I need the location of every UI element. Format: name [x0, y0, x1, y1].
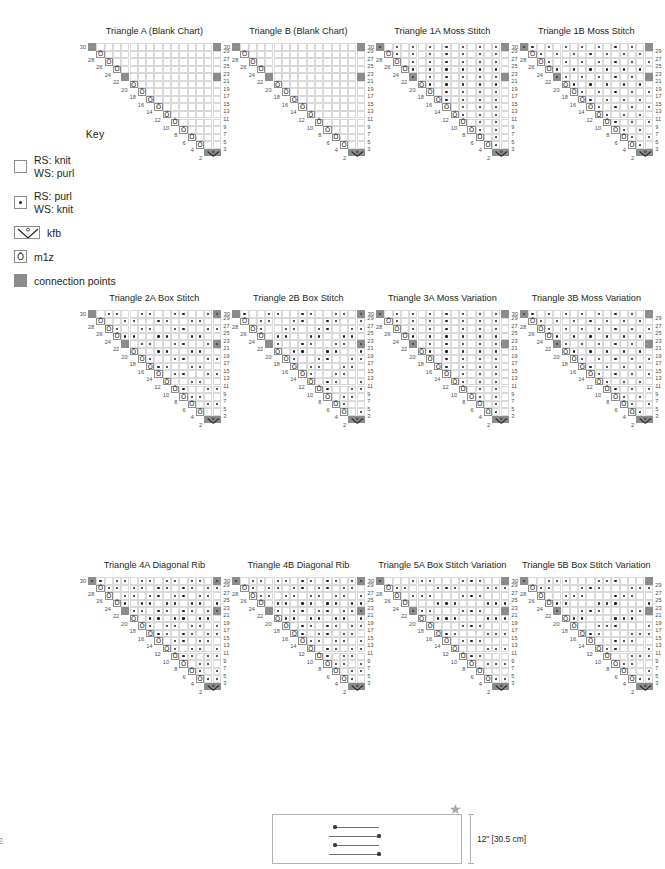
knit-cell — [179, 600, 187, 608]
purl-cell — [348, 645, 356, 653]
purl-cell — [146, 340, 154, 348]
connection-point-cell — [520, 310, 528, 318]
purl-cell — [459, 88, 467, 96]
row-number-right: 7 — [223, 131, 226, 138]
row-number-right: 13 — [223, 375, 229, 382]
purl-cell — [171, 615, 179, 623]
row-number-left: 10 — [446, 392, 457, 399]
m1z-cell: Ō — [240, 318, 248, 326]
kfb-cell — [348, 683, 365, 691]
row-number-left: 18 — [557, 94, 568, 101]
row-number-right: 11 — [511, 383, 517, 390]
row-number-left: 28 — [371, 57, 382, 64]
m1z-glyph: Ō — [156, 104, 161, 111]
knit-cell — [340, 318, 348, 326]
purl-cell — [282, 600, 290, 608]
m1z-glyph: Ō — [283, 623, 288, 630]
connection-point-cell — [645, 43, 653, 51]
knit-cell — [154, 81, 162, 89]
purl-cell — [636, 111, 644, 119]
purl-cell — [636, 81, 644, 89]
knit-cell — [171, 585, 179, 593]
purl-cell — [307, 340, 315, 348]
row-number-left: 6 — [607, 674, 618, 681]
knit-cell — [179, 363, 187, 371]
purl-cell — [418, 592, 426, 600]
purl-cell — [204, 370, 212, 378]
purl-cell — [595, 43, 603, 51]
knit-cell — [332, 51, 340, 59]
connection-point-cell — [232, 577, 240, 585]
purl-cell — [595, 585, 603, 593]
knit-cell — [188, 310, 196, 318]
purl-cell — [171, 622, 179, 630]
knit-cell — [578, 66, 586, 74]
knit-cell — [298, 355, 306, 363]
purl-cell — [323, 622, 331, 630]
purl-cell — [451, 585, 459, 593]
kfb-cell — [348, 416, 365, 424]
knit-cell — [179, 111, 187, 119]
knit-cell — [204, 141, 212, 149]
row-number-left: 30 — [363, 578, 374, 585]
purl-cell — [492, 630, 500, 638]
knit-cell — [501, 325, 509, 333]
row-number-right: 27 — [655, 56, 661, 63]
knit-cell — [332, 630, 340, 638]
knit-cell — [595, 363, 603, 371]
connection-point-cell — [121, 73, 129, 81]
knit-cell — [620, 355, 628, 363]
chart-7: Triangle 3A Moss Variation302928Ō2726Ō25… — [376, 293, 509, 430]
row-number-left: 12 — [582, 384, 593, 391]
knit-cell — [154, 73, 162, 81]
purl-cell — [265, 310, 273, 318]
knit-cell — [484, 340, 492, 348]
purl-cell — [562, 592, 570, 600]
row-number-right: 5 — [511, 406, 514, 413]
knit-cell — [620, 607, 628, 615]
knit-cell — [113, 51, 121, 59]
knit-cell — [348, 370, 356, 378]
kfb-cell — [636, 683, 653, 691]
knit-cell — [130, 325, 138, 333]
knit-cell — [332, 585, 340, 593]
knit-cell — [315, 81, 323, 89]
m1z-cell: Ō — [105, 58, 113, 66]
purl-cell — [340, 363, 348, 371]
knit-cell — [348, 81, 356, 89]
knit-cell — [315, 600, 323, 608]
knit-cell — [348, 111, 356, 119]
knit-cell — [298, 592, 306, 600]
knit-cell — [401, 318, 409, 326]
purl-cell — [348, 622, 356, 630]
row-number-right: 7 — [511, 665, 514, 672]
knit-cell — [595, 333, 603, 341]
m1z-cell: Ō — [620, 134, 628, 142]
purl-cell — [492, 675, 500, 683]
purl-cell — [196, 615, 204, 623]
knit-cell — [418, 600, 426, 608]
purl-cell — [204, 325, 212, 333]
connection-point-cell — [357, 73, 365, 81]
knit-cell — [586, 58, 594, 66]
key-purl-line2: WS: knit — [34, 203, 73, 216]
knit-cell — [434, 325, 442, 333]
row-number-left: 12 — [582, 117, 593, 124]
row-number-left: 12 — [438, 651, 449, 658]
m1z-cell: Ō — [393, 325, 401, 333]
knit-cell — [282, 73, 290, 81]
purl-cell — [476, 81, 484, 89]
row-number-right: 5 — [511, 673, 514, 680]
purl-cell — [476, 119, 484, 127]
purl-cell — [620, 333, 628, 341]
m1z-glyph: Ō — [452, 378, 457, 385]
knit-cell — [138, 43, 146, 51]
row-number-right: 25 — [511, 597, 517, 604]
knit-cell — [628, 645, 636, 653]
purl-cell — [578, 615, 586, 623]
knit-cell — [401, 310, 409, 318]
knit-cell — [188, 592, 196, 600]
m1z-cell: Ō — [384, 51, 392, 59]
row-number-right: 21 — [655, 78, 661, 85]
knit-cell — [501, 96, 509, 104]
